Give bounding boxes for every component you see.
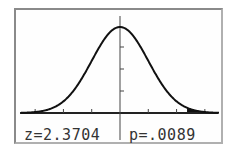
calculator-screen: z=2.3704 p=.0089 bbox=[14, 8, 223, 144]
z-score-readout: z=2.3704 bbox=[24, 126, 100, 144]
p-value-readout: p=.0089 bbox=[129, 126, 196, 144]
normal-distribution-plot bbox=[16, 10, 221, 142]
